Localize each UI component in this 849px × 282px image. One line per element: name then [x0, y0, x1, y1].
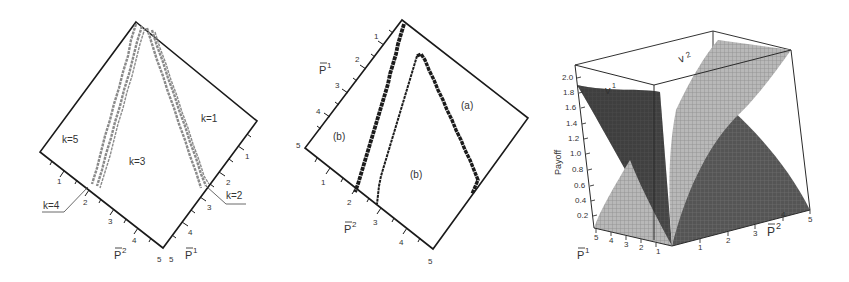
svg-text:1.0: 1.0 [570, 149, 582, 158]
svg-text:5: 5 [169, 255, 174, 264]
svg-text:2: 2 [685, 50, 693, 60]
region-label-k4: k=4 [43, 200, 60, 211]
svg-text:2: 2 [639, 243, 644, 252]
svg-text:5: 5 [808, 215, 813, 224]
svg-text:P: P [577, 249, 584, 261]
region-label-a: (a) [461, 100, 473, 111]
panel-region-map-ab: 1 2 3 4 5 1 2 3 4 5 (a) (b) (b) [290, 0, 550, 282]
svg-text:0.2: 0.2 [577, 211, 589, 220]
svg-text:v: v [605, 84, 611, 96]
axis-title-p1: P 1 [185, 246, 198, 261]
region-label-k1: k=1 [201, 113, 218, 124]
region-label-b-left: (b) [333, 131, 345, 142]
svg-text:3: 3 [108, 217, 113, 226]
svg-text:5: 5 [157, 255, 162, 264]
svg-text:1.2: 1.2 [568, 134, 580, 143]
region-map-ab-plot: 1 2 3 4 5 1 2 3 4 5 (a) (b) (b) [290, 0, 550, 282]
svg-text:3: 3 [373, 218, 378, 227]
region-label-k3: k=3 [129, 156, 146, 167]
region-map-k-plot: 1 2 3 4 5 1 2 3 4 5 k=5 k=3 k=1 [0, 0, 290, 282]
svg-text:2.0: 2.0 [562, 73, 574, 82]
svg-text:4: 4 [188, 228, 193, 237]
svg-text:P: P [114, 249, 121, 261]
svg-text:0.8: 0.8 [572, 165, 584, 174]
svg-text:1: 1 [327, 61, 332, 70]
svg-text:4: 4 [781, 210, 786, 219]
panel-region-map-k: 1 2 3 4 5 1 2 3 4 5 k=5 k=3 k=1 [0, 0, 290, 282]
y-axis-title: P 2 [767, 221, 781, 239]
panel-payoff-surface: 2.0 1.8 1.6 1.4 1.2 1.0 0.8 0.6 0.4 0.2 … [550, 0, 849, 282]
svg-text:2: 2 [226, 178, 231, 187]
svg-text:1.6: 1.6 [565, 103, 577, 112]
axis-title-p1: P 1 [319, 61, 332, 76]
svg-text:1.4: 1.4 [566, 119, 578, 128]
svg-text:3: 3 [207, 203, 212, 212]
svg-text:2: 2 [347, 198, 352, 207]
surface-label-v2: v 2 [677, 50, 693, 65]
svg-text:4: 4 [316, 107, 321, 116]
svg-text:5: 5 [594, 233, 599, 242]
svg-text:1: 1 [57, 177, 62, 186]
axis-title-p2: P 2 [344, 220, 357, 235]
svg-text:2: 2 [83, 198, 88, 207]
axis-title-p2: P 2 [114, 246, 127, 261]
svg-text:P: P [319, 64, 326, 76]
svg-text:3: 3 [335, 81, 340, 90]
svg-text:P: P [767, 225, 775, 239]
svg-text:2: 2 [776, 221, 781, 231]
svg-text:0.6: 0.6 [574, 181, 586, 190]
svg-text:1: 1 [193, 246, 198, 255]
region-label-b-center: (b) [410, 169, 422, 180]
svg-text:4: 4 [399, 238, 404, 247]
svg-text:2: 2 [352, 220, 357, 229]
svg-text:2: 2 [122, 246, 127, 255]
z-axis-title: Payoff [553, 149, 563, 175]
region-label-k5: k=5 [62, 134, 79, 145]
svg-text:1: 1 [698, 243, 703, 252]
svg-text:1: 1 [321, 178, 326, 187]
svg-text:4: 4 [132, 236, 137, 245]
svg-text:1: 1 [656, 247, 661, 256]
svg-text:2: 2 [355, 55, 360, 64]
region-label-k2: k=2 [226, 190, 243, 201]
svg-text:0.4: 0.4 [575, 196, 587, 205]
svg-text:4: 4 [609, 236, 614, 245]
svg-text:P: P [344, 223, 351, 235]
svg-text:3: 3 [624, 240, 629, 249]
svg-text:2: 2 [726, 236, 731, 245]
svg-text:P: P [185, 249, 192, 261]
x-axis-title: P 1 [577, 246, 590, 261]
payoff-surface-plot: 2.0 1.8 1.6 1.4 1.2 1.0 0.8 0.6 0.4 0.2 … [550, 0, 849, 282]
svg-text:1.8: 1.8 [563, 88, 575, 97]
svg-text:1: 1 [585, 246, 590, 255]
svg-text:5: 5 [428, 257, 433, 266]
svg-text:5: 5 [296, 141, 301, 150]
svg-text:1: 1 [374, 32, 379, 41]
svg-text:1: 1 [245, 152, 250, 161]
svg-text:3: 3 [753, 229, 758, 238]
svg-text:1: 1 [612, 82, 616, 89]
